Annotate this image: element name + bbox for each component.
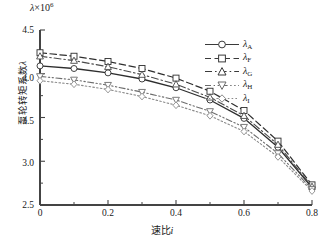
- legend-item-3[interactable]: λH: [205, 79, 252, 93]
- legend-item-4[interactable]: λI: [205, 92, 252, 106]
- legend-symbol-triangle-down-icon: [205, 79, 239, 92]
- legend-symbol-diamond-icon: [205, 92, 239, 105]
- chart-figure: λ×106 泵轮转矩系数λ 速比i 2.5 3.0 3.5 4.0 4.5 0 …: [0, 0, 324, 245]
- legend-symbol-square-icon: [205, 52, 239, 65]
- chart-legend: λA λF λG: [205, 38, 252, 106]
- legend-item-1[interactable]: λF: [205, 52, 252, 66]
- legend-label-1: λF: [243, 52, 251, 64]
- legend-label-4: λI: [243, 93, 250, 105]
- plot-canvas: [0, 0, 324, 245]
- legend-item-0[interactable]: λA: [205, 38, 252, 52]
- legend-label-3: λH: [243, 79, 252, 91]
- legend-symbol-triangle-up-icon: [205, 65, 239, 78]
- legend-item-2[interactable]: λG: [205, 65, 252, 79]
- legend-label-2: λG: [243, 66, 252, 78]
- legend-label-0: λA: [243, 39, 252, 51]
- legend-symbol-circle-icon: [205, 38, 239, 51]
